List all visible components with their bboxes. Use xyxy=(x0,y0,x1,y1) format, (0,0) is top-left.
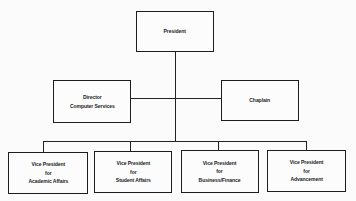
president-box: President xyxy=(136,11,214,52)
vp-business-finance-box: Vice President for Business/Finance xyxy=(181,150,259,193)
vp-academic-affairs-box: Vice President for Academic Affairs xyxy=(8,152,88,194)
director-computer-services-box: Director Computer Services xyxy=(53,80,131,123)
chaplain-box: Chaplain xyxy=(221,80,299,121)
staff-horizontal-line xyxy=(131,98,221,99)
vp-student-connector xyxy=(130,141,131,151)
vp-student-affairs-box: Vice President for Student Affairs xyxy=(94,151,172,193)
vp-advancement-label: Vice President for Advancement xyxy=(290,158,324,184)
trunk-line xyxy=(175,52,176,141)
vp-horizontal-bar xyxy=(43,141,307,142)
chaplain-label: Chaplain xyxy=(250,96,271,105)
vp-advancement-box: Vice President for Advancement xyxy=(267,150,346,192)
vp-advancement-connector xyxy=(306,141,307,150)
vp-student-label: Vice President for Student Affairs xyxy=(116,159,151,185)
vp-academic-label: Vice President for Academic Affairs xyxy=(28,160,68,186)
vp-business-label: Vice President for Business/Finance xyxy=(199,159,241,185)
vp-business-connector xyxy=(218,141,219,150)
president-label: President xyxy=(164,27,186,36)
director-label: Director Computer Services xyxy=(70,93,115,110)
vp-academic-connector xyxy=(43,141,44,152)
